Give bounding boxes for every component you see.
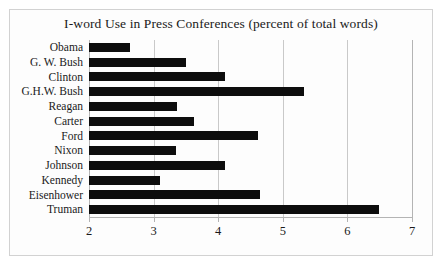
category-axis-labels: ObamaG. W. BushClintonG.H.W. BushReaganC…: [10, 40, 87, 217]
x-tick-mark-5: [283, 217, 284, 222]
x-tick-label-2: 2: [86, 224, 92, 239]
x-tick-mark-2: [89, 217, 90, 222]
category-label: Johnson: [10, 158, 87, 173]
bar-truman[interactable]: [89, 205, 379, 214]
x-tick-label-3: 3: [150, 224, 156, 239]
x-tick-mark-3: [154, 217, 155, 222]
category-label: G.H.W. Bush: [10, 84, 87, 99]
category-label: Obama: [10, 40, 87, 55]
bar-obama[interactable]: [89, 43, 130, 52]
bar-g-w-bush[interactable]: [89, 58, 186, 67]
bar-row: [89, 129, 412, 144]
bar-nixon[interactable]: [89, 146, 176, 155]
bar-reagan[interactable]: [89, 102, 177, 111]
bar-clinton[interactable]: [89, 72, 225, 81]
x-tick-mark-6: [347, 217, 348, 222]
bar-kennedy[interactable]: [89, 176, 160, 185]
bar-johnson[interactable]: [89, 161, 225, 170]
category-label: Reagan: [10, 99, 87, 114]
category-label: Kennedy: [10, 173, 87, 188]
bar-row: [89, 143, 412, 158]
category-label: Clinton: [10, 70, 87, 85]
category-label: Truman: [10, 202, 87, 217]
bar-row: [89, 188, 412, 203]
bar-row: [89, 84, 412, 99]
x-tick-label-7: 7: [409, 224, 415, 239]
bar-g-h-w-bush[interactable]: [89, 87, 304, 96]
bar-eisenhower[interactable]: [89, 190, 260, 199]
bar-row: [89, 55, 412, 70]
x-tick-mark-4: [218, 217, 219, 222]
bar-row: [89, 99, 412, 114]
x-tick-label-6: 6: [344, 224, 350, 239]
chart-figure: I-word Use in Press Conferences (percent…: [9, 9, 433, 256]
x-tick-label-5: 5: [280, 224, 286, 239]
chart-title: I-word Use in Press Conferences (percent…: [10, 16, 432, 32]
x-axis-line: [89, 217, 412, 218]
category-label: Ford: [10, 129, 87, 144]
category-label: G. W. Bush: [10, 55, 87, 70]
x-axis: 234567: [89, 217, 412, 247]
bar-row: [89, 173, 412, 188]
bar-ford[interactable]: [89, 131, 258, 140]
bar-row: [89, 70, 412, 85]
category-label: Nixon: [10, 143, 87, 158]
plot-area: [89, 40, 412, 217]
category-label: Eisenhower: [10, 188, 87, 203]
bar-row: [89, 114, 412, 129]
x-tick-mark-7: [412, 217, 413, 222]
category-label: Carter: [10, 114, 87, 129]
bar-series: [89, 40, 412, 217]
bar-row: [89, 202, 412, 217]
bar-carter[interactable]: [89, 117, 194, 126]
bar-row: [89, 40, 412, 55]
x-tick-label-4: 4: [215, 224, 221, 239]
gridline-7: [412, 40, 413, 217]
bar-row: [89, 158, 412, 173]
